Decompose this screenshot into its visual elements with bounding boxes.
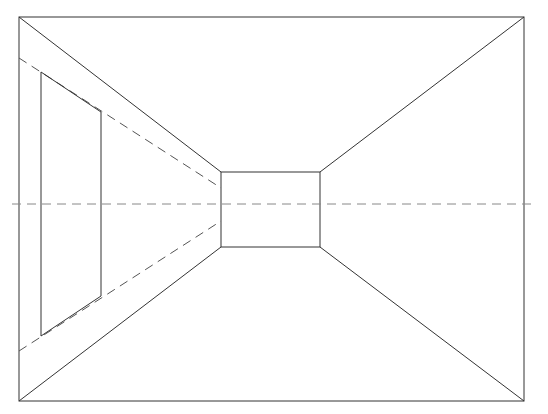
- back-wall: [221, 172, 320, 247]
- ceiling-right-edge: [320, 17, 524, 172]
- lower-guide-line: [19, 221, 221, 351]
- perspective-diagram: [0, 0, 548, 414]
- ceiling-left-edge: [19, 17, 221, 172]
- floor-right-edge: [320, 247, 524, 401]
- floor-left-edge: [19, 247, 221, 401]
